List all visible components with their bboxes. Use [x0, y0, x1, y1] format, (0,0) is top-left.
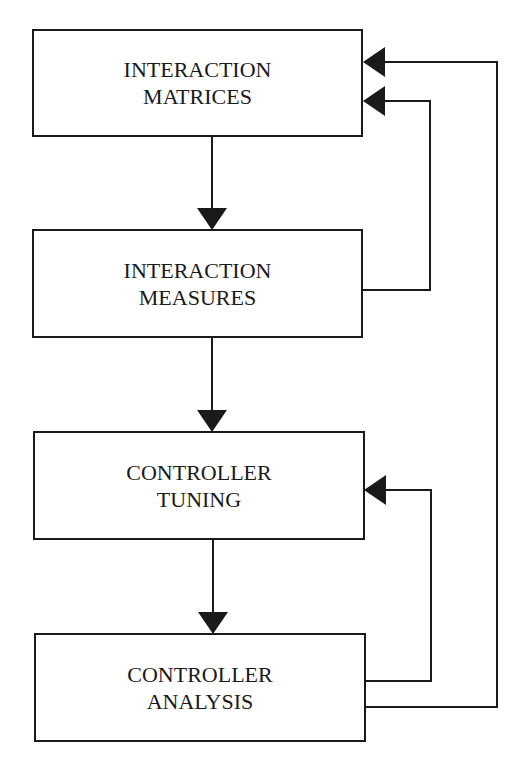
node-interaction-measures: INTERACTION MEASURES	[32, 229, 363, 338]
node-label-line: CONTROLLER	[126, 459, 271, 486]
feedback-analysis-to-tuning	[364, 490, 431, 681]
arrowhead-left-icon	[364, 475, 386, 505]
node-label-line: MATRICES	[143, 83, 252, 110]
arrowhead-down-icon	[198, 612, 228, 634]
node-label-line: ANALYSIS	[147, 688, 254, 715]
arrowhead-left-icon	[363, 86, 385, 116]
node-label-line: CONTROLLER	[127, 661, 272, 688]
node-controller-tuning: CONTROLLER TUNING	[33, 431, 365, 540]
feedback-measures-to-matrices	[362, 101, 430, 290]
arrowhead-left-icon	[363, 47, 385, 77]
node-interaction-matrices: INTERACTION MATRICES	[32, 29, 363, 137]
node-label-line: TUNING	[157, 486, 241, 513]
node-label-line: INTERACTION	[124, 56, 272, 83]
node-controller-analysis: CONTROLLER ANALYSIS	[34, 633, 366, 742]
arrowhead-down-icon	[197, 410, 227, 432]
node-label-line: INTERACTION	[124, 257, 272, 284]
arrowhead-down-icon	[197, 208, 227, 230]
node-label-line: MEASURES	[139, 284, 256, 311]
